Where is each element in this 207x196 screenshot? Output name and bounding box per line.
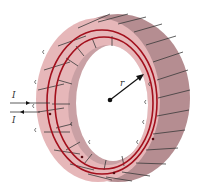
radius-label: r (120, 78, 125, 88)
current-in-label: I (11, 90, 16, 100)
current-in-arrow (26, 101, 30, 105)
center-point (108, 98, 113, 103)
current-out-arrow (20, 110, 24, 114)
toroid-diagram: r I I (0, 0, 207, 196)
current-out-label: I (11, 115, 16, 125)
